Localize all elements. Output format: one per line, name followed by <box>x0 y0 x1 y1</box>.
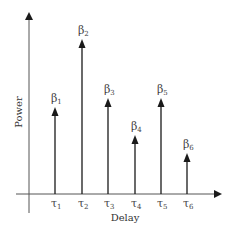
delay-label: τ1 <box>51 197 62 211</box>
delay-label: τ2 <box>78 197 89 211</box>
tap-4: β4τ4 <box>131 120 142 211</box>
tap-3: β3τ3 <box>104 83 115 211</box>
gain-label: β5 <box>157 83 168 97</box>
gain-label: β3 <box>104 83 115 97</box>
tap-2: β2τ2 <box>78 24 89 211</box>
gain-label: β2 <box>78 24 89 38</box>
diagram-canvas: Power Delay β1τ1β2τ2β3τ3β4τ4β5τ5β6τ6 <box>0 0 252 238</box>
arrow-up-icon <box>52 107 59 116</box>
tap-6: β6τ6 <box>183 138 194 211</box>
arrow-up-icon <box>184 153 191 162</box>
gain-label: β6 <box>183 138 194 152</box>
gain-label: β4 <box>131 120 142 134</box>
power-delay-profile-diagram: Power Delay β1τ1β2τ2β3τ3β4τ4β5τ5β6τ6 <box>0 0 252 238</box>
gain-label: β1 <box>51 92 62 106</box>
delay-label: τ4 <box>131 197 142 211</box>
tap-1: β1τ1 <box>51 92 62 211</box>
x-axis-label: Delay <box>111 212 140 223</box>
tap-group: β1τ1β2τ2β3τ3β4τ4β5τ5β6τ6 <box>51 24 194 211</box>
arrow-up-icon <box>79 39 86 48</box>
delay-label: τ3 <box>104 197 115 211</box>
arrow-up-icon <box>105 98 112 107</box>
delay-label: τ6 <box>183 197 194 211</box>
delay-label: τ5 <box>157 197 168 211</box>
arrow-up-icon <box>158 98 165 107</box>
y-axis-label: Power <box>13 96 24 128</box>
arrow-up-icon <box>132 135 139 144</box>
tap-5: β5τ5 <box>157 83 168 211</box>
